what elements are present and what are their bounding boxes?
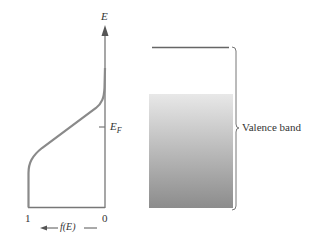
valence-band-block [149,94,233,208]
arrow-left-icon [40,226,47,231]
valence-band-label: Valence band [242,122,301,133]
x-tick-right: 0 [102,213,108,224]
fermi-level-label: EF [110,121,122,135]
curly-brace [232,47,239,210]
fermi-dirac-curve [29,68,106,208]
fermi-level-main: E [110,120,117,132]
fermi-level-subscript: F [117,126,122,135]
energy-axis-label: E [101,11,108,22]
arrow-up-icon [102,25,109,36]
energy-axis [102,25,109,208]
x-axis-label: f(E) [60,222,76,232]
x-tick-left: 1 [25,213,31,224]
